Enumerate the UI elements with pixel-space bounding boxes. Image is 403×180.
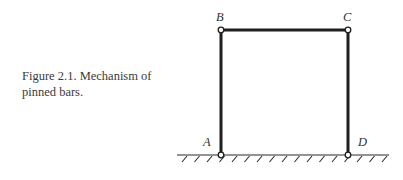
hatch-mark <box>357 156 362 162</box>
hatch-mark <box>270 156 275 162</box>
hatch-mark <box>320 156 325 162</box>
pin-c <box>345 27 351 33</box>
pin-d <box>345 152 351 158</box>
hatch-mark <box>182 156 187 162</box>
hatch-mark <box>195 156 200 162</box>
hatch-mark <box>245 156 250 162</box>
hatch-mark <box>382 156 387 162</box>
label-b: B <box>216 10 224 24</box>
hatch-mark <box>332 156 337 162</box>
label-d: D <box>357 135 367 149</box>
hatch-mark <box>282 156 287 162</box>
hatch-mark <box>232 156 237 162</box>
label-a: A <box>202 135 211 149</box>
pin-b <box>218 27 224 33</box>
hatch-mark <box>370 156 375 162</box>
hatch-mark <box>295 156 300 162</box>
hatch-mark <box>257 156 262 162</box>
ground-hatching <box>182 156 387 162</box>
pin-a <box>218 152 224 158</box>
hatch-mark <box>207 156 212 162</box>
hatch-mark <box>307 156 312 162</box>
label-c: C <box>343 10 352 24</box>
mechanism-diagram: A B C D <box>0 0 403 180</box>
